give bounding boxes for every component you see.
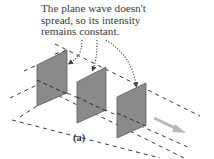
propagation-arrow	[154, 118, 186, 133]
figure-label: (a)	[73, 132, 85, 143]
wavefront-1	[37, 50, 67, 106]
plane-wave-diagram	[0, 0, 214, 159]
wavefront-3	[117, 83, 146, 138]
wavefront-2	[77, 67, 106, 123]
wavefronts	[37, 50, 146, 138]
